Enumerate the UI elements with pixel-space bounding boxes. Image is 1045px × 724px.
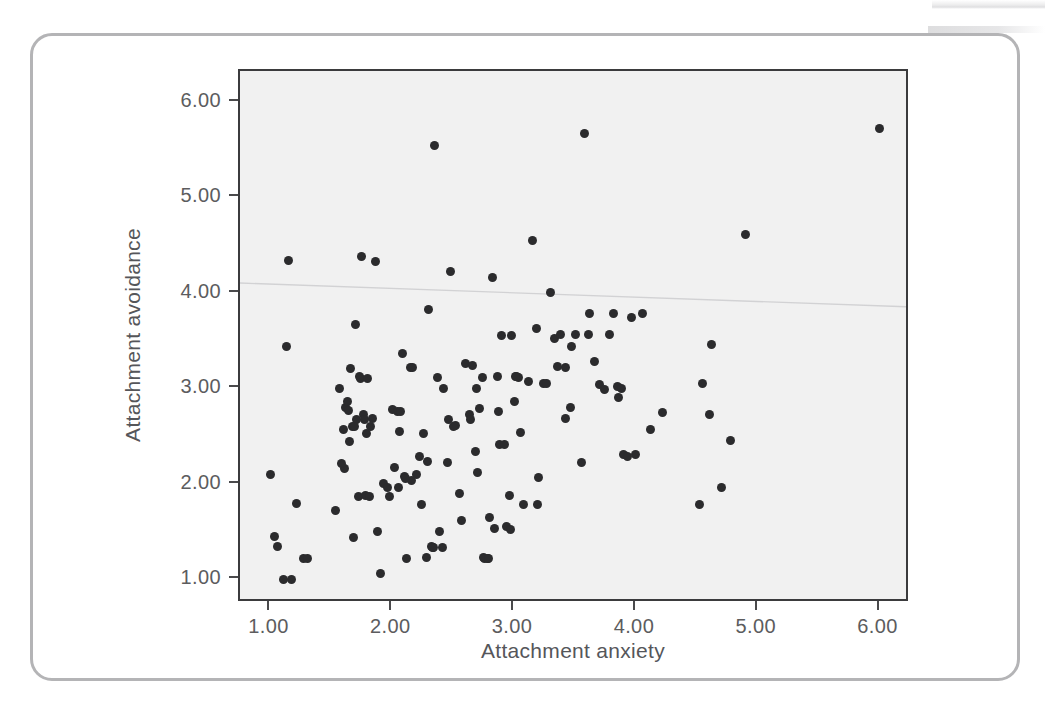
data-point	[266, 470, 275, 479]
data-point	[726, 436, 735, 445]
scatter-chart: 1.002.003.004.005.006.00 1.002.003.004.0…	[3, 3, 1045, 724]
data-point	[627, 313, 636, 322]
data-point	[408, 363, 417, 372]
data-point	[357, 252, 366, 261]
data-point	[349, 533, 358, 542]
data-point	[351, 320, 360, 329]
data-point	[532, 324, 541, 333]
data-point	[707, 340, 716, 349]
data-point	[468, 361, 477, 370]
y-tick-mark	[229, 385, 238, 387]
data-point	[303, 554, 312, 563]
data-point	[423, 457, 432, 466]
data-point	[344, 406, 353, 415]
data-point	[473, 468, 482, 477]
data-point	[567, 342, 576, 351]
data-point	[617, 384, 626, 393]
data-point	[577, 458, 586, 467]
y-tick-label: 6.00	[141, 88, 221, 111]
data-point	[561, 363, 570, 372]
data-point	[443, 458, 452, 467]
x-tick-mark	[755, 601, 757, 610]
data-point	[566, 403, 575, 412]
data-point	[695, 500, 704, 509]
data-point	[519, 500, 528, 509]
data-point	[457, 516, 466, 525]
x-tick-label: 5.00	[735, 615, 776, 638]
data-point	[488, 273, 497, 282]
data-point	[376, 569, 385, 578]
x-tick-label: 1.00	[248, 615, 289, 638]
data-point	[345, 437, 354, 446]
data-point	[417, 500, 426, 509]
data-point	[430, 141, 439, 150]
data-point	[631, 450, 640, 459]
data-point	[638, 309, 647, 318]
data-point	[287, 575, 296, 584]
data-point	[875, 124, 884, 133]
x-axis-title: Attachment anxiety	[238, 639, 908, 663]
x-tick-mark	[877, 601, 879, 610]
y-axis-title: Attachment avoidance	[121, 69, 145, 601]
data-point	[494, 407, 503, 416]
data-point	[609, 309, 618, 318]
data-point	[335, 384, 344, 393]
data-point	[646, 425, 655, 434]
y-tick-label: 1.00	[141, 566, 221, 589]
data-point	[433, 373, 442, 382]
data-point	[350, 422, 359, 431]
data-point	[282, 342, 291, 351]
data-point	[705, 410, 714, 419]
x-tick-mark	[511, 601, 513, 610]
data-point	[484, 554, 493, 563]
data-point	[363, 374, 372, 383]
data-point	[449, 422, 458, 431]
data-point	[331, 506, 340, 515]
y-tick-mark	[229, 481, 238, 483]
data-point	[614, 393, 623, 402]
data-point	[478, 373, 487, 382]
data-point	[510, 397, 519, 406]
x-tick-mark	[389, 601, 391, 610]
data-point	[516, 428, 525, 437]
data-point	[284, 256, 293, 265]
data-point	[402, 554, 411, 563]
data-point	[273, 542, 282, 551]
data-point	[698, 379, 707, 388]
y-tick-mark	[229, 99, 238, 101]
data-point	[439, 384, 448, 393]
data-point	[490, 524, 499, 533]
data-point	[561, 414, 570, 423]
y-tick-mark	[229, 194, 238, 196]
data-point	[524, 377, 533, 386]
x-tick-mark	[633, 601, 635, 610]
data-point	[507, 331, 516, 340]
data-point	[390, 463, 399, 472]
data-point	[741, 230, 750, 239]
data-point	[424, 305, 433, 314]
data-point	[546, 288, 555, 297]
data-point	[511, 372, 520, 381]
data-point	[438, 543, 447, 552]
data-point	[385, 492, 394, 501]
data-point	[365, 492, 374, 501]
x-tick-label: 2.00	[370, 615, 411, 638]
x-tick-label: 4.00	[614, 615, 655, 638]
data-point	[485, 513, 494, 522]
data-point	[556, 330, 565, 339]
figure-card: 1.002.003.004.005.006.00 1.002.003.004.0…	[30, 33, 1020, 681]
data-point	[455, 489, 464, 498]
data-point	[605, 330, 614, 339]
y-tick-label: 4.00	[141, 279, 221, 302]
data-point	[534, 473, 543, 482]
data-point	[571, 330, 580, 339]
data-point	[590, 357, 599, 366]
plot-panel	[238, 69, 908, 601]
data-point	[493, 372, 502, 381]
data-point	[373, 527, 382, 536]
data-point	[500, 440, 509, 449]
data-point	[355, 372, 364, 381]
y-tick-mark	[229, 576, 238, 578]
data-point	[584, 330, 593, 339]
y-tick-mark	[229, 290, 238, 292]
